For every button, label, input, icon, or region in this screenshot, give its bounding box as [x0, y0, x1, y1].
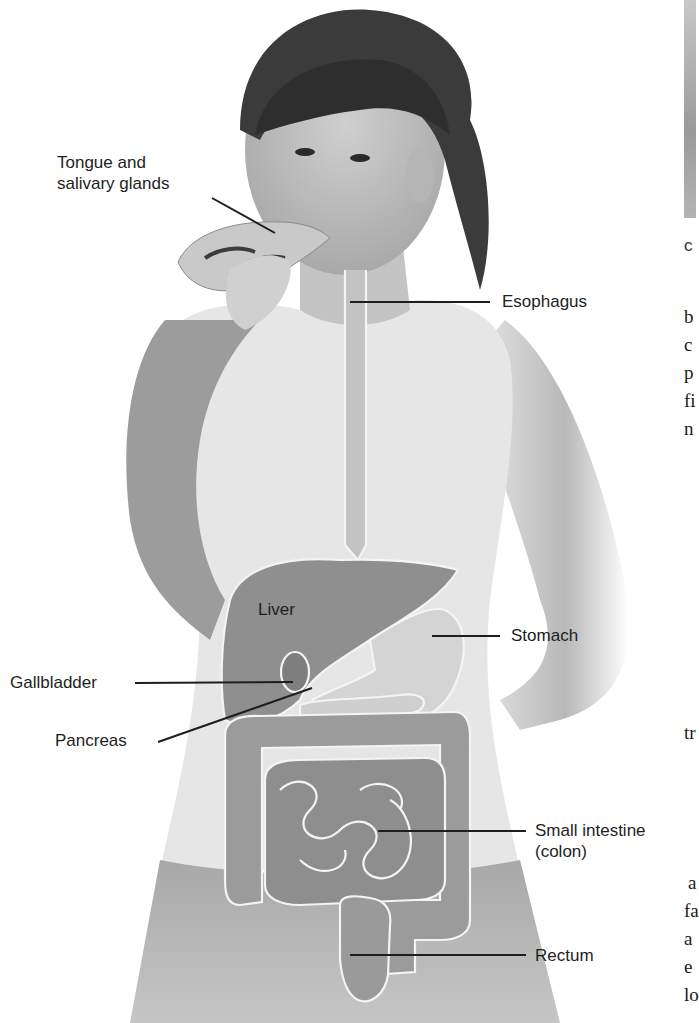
gallbladder-organ: [281, 652, 309, 692]
body-text-fragment: fa: [684, 900, 699, 922]
body-text-fragment: a: [688, 872, 696, 894]
label-gallbladder: Gallbladder: [10, 672, 97, 693]
body-text-fragment: c: [684, 334, 692, 356]
digestive-system-figure: Tongue and salivary glands Esophagus Liv…: [0, 0, 630, 1023]
right-eye: [350, 154, 370, 162]
label-small-intestine-line1: Small intestine: [535, 820, 646, 841]
label-esophagus: Esophagus: [502, 291, 587, 312]
body-text-fragment: e: [684, 956, 692, 978]
gallbladder-leader: [135, 682, 293, 683]
esophagus-organ: [345, 270, 366, 560]
ear: [406, 147, 434, 203]
label-pancreas: Pancreas: [55, 730, 127, 751]
adjacent-photo-fragment: [684, 0, 696, 218]
label-stomach: Stomach: [511, 625, 578, 646]
label-tongue-line1: Tongue and: [57, 152, 169, 173]
body-text-fragment: tr: [684, 722, 696, 744]
body-text-fragment: fi: [684, 390, 696, 412]
label-tongue: Tongue and salivary glands: [57, 152, 169, 194]
adjacent-caption-fragment: c: [684, 236, 693, 256]
body-text-fragment: lo: [684, 984, 699, 1006]
rectum-organ: [340, 896, 390, 1001]
body-text-fragment: a: [684, 928, 692, 950]
label-tongue-line2: salivary glands: [57, 173, 169, 194]
body-text-fragment: b: [684, 306, 694, 328]
body-text-fragment: n: [684, 418, 694, 440]
label-liver: Liver: [258, 599, 295, 620]
label-small-intestine: Small intestine (colon): [535, 820, 646, 862]
body-text-fragment: p: [684, 362, 694, 384]
label-rectum: Rectum: [535, 945, 594, 966]
label-small-intestine-line2: (colon): [535, 841, 646, 862]
left-eye: [295, 148, 315, 156]
